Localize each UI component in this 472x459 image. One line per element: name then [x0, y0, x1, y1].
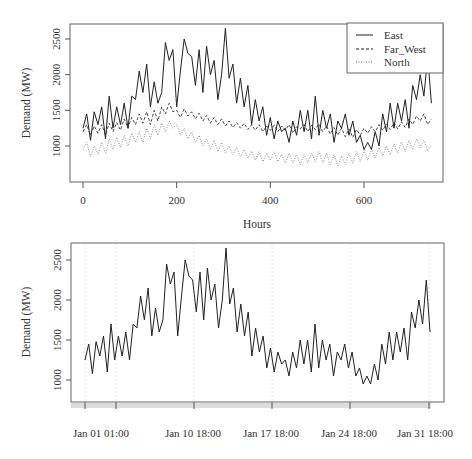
bottom-plot-frame [71, 243, 444, 402]
y-tick-label: 2000 [50, 63, 62, 86]
x-tick-label: 200 [168, 194, 185, 206]
top-y-axis: 1000150020002500 [50, 28, 70, 158]
bottom-panel: 1000150020002500 Jan 01 01:00Jan 10 18:0… [20, 243, 454, 439]
legend-east-label: East [384, 29, 403, 41]
chart-figure: 1000150020002500 0200400600 Demand (MW) … [0, 0, 472, 459]
top-x-axis-label: Hours [243, 218, 272, 230]
bottom-plot-lines [85, 248, 430, 384]
top-y-axis-label: Demand (MW) [20, 68, 33, 139]
top-panel: 1000150020002500 0200400600 Demand (MW) … [20, 23, 443, 230]
legend-north-label: North [384, 56, 410, 68]
legend: East Far_West North [347, 23, 443, 73]
x-tick-label: Jan 31 18:00 [397, 427, 454, 439]
y-tick-label: 2500 [51, 249, 63, 272]
x-tick-label: Jan 17 18:00 [243, 427, 300, 439]
x-tick-label: 400 [262, 194, 279, 206]
y-tick-label: 1000 [51, 369, 63, 392]
legend-farwest-label: Far_West [384, 43, 426, 55]
x-tick-label: Jan 10 18:00 [165, 427, 222, 439]
y-tick-label: 1000 [50, 135, 62, 158]
x-tick-label: 600 [356, 194, 373, 206]
top-x-axis: 0200400600 [80, 182, 373, 206]
x-tick-label: 0 [80, 194, 86, 206]
bottom-y-axis: 1000150020002500 [51, 249, 71, 392]
x-tick-label: Jan 01 01:00 [73, 427, 130, 439]
series-east-line [85, 248, 430, 384]
x-tick-label: Jan 24 18:00 [321, 427, 378, 439]
bottom-y-axis-label: Demand (MW) [20, 287, 33, 358]
y-tick-label: 2500 [50, 28, 62, 51]
bottom-range-strip [71, 403, 431, 408]
y-tick-label: 1500 [51, 329, 63, 352]
y-tick-label: 1500 [50, 99, 62, 122]
y-tick-label: 2000 [51, 289, 63, 312]
